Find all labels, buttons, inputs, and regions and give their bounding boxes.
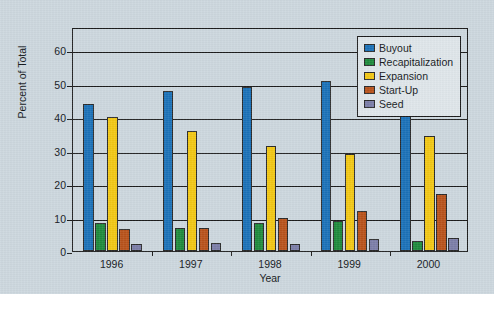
y-tick-label: 30: [54, 146, 66, 158]
y-tick-mark: [67, 52, 72, 53]
y-tick-label: 0: [60, 246, 66, 258]
x-tick-label-1997: 1997: [179, 258, 202, 270]
x-tick-label-1999: 1999: [338, 258, 361, 270]
y-axis-title: Percent of Total: [16, 12, 28, 152]
bar-group-1997: [163, 29, 222, 251]
y-tick-label: 50: [54, 79, 66, 91]
y-tick-mark: [67, 220, 72, 221]
y-axis-tick-labels: 0102030405060: [36, 28, 66, 252]
x-tick-mark: [311, 251, 312, 256]
legend-label: Start-Up: [379, 84, 418, 96]
y-tick-mark: [67, 86, 72, 87]
legend-item-expansion: Expansion: [364, 69, 453, 83]
bar-start-up-1996: [119, 229, 130, 251]
bar-buyout-1998: [242, 87, 253, 251]
legend-item-start-up: Start-Up: [364, 83, 453, 97]
y-tick-mark: [67, 119, 72, 120]
bar-group-1998: [242, 29, 301, 251]
bar-seed-2000: [448, 238, 459, 251]
y-tick-label: 60: [54, 45, 66, 57]
x-tick-mark: [231, 251, 232, 256]
x-tick-mark: [390, 251, 391, 256]
x-tick-mark: [152, 251, 153, 256]
chart-legend: BuyoutRecapitalizationExpansionStart-UpS…: [357, 36, 461, 117]
legend-label: Seed: [379, 98, 404, 110]
x-tick-label-1996: 1996: [100, 258, 123, 270]
bar-recapitalization-1997: [175, 228, 186, 251]
legend-label: Buyout: [379, 42, 412, 54]
legend-item-buyout: Buyout: [364, 41, 453, 55]
bar-expansion-1999: [345, 154, 356, 251]
chart-figure: Percent of Total 0102030405060 199619971…: [0, 0, 494, 294]
bar-buyout-2000: [400, 114, 411, 251]
x-tick-label-1998: 1998: [258, 258, 281, 270]
bar-expansion-2000: [424, 136, 435, 251]
bar-seed-1997: [211, 243, 222, 251]
bar-start-up-1997: [199, 228, 210, 251]
y-tick-mark: [67, 253, 72, 254]
legend-swatch-icon: [364, 100, 375, 108]
bar-seed-1999: [369, 239, 380, 251]
bar-recapitalization-1998: [254, 223, 265, 251]
bar-expansion-1996: [107, 117, 118, 251]
bar-buyout-1996: [83, 104, 94, 251]
bar-expansion-1998: [266, 146, 277, 251]
y-tick-label: 20: [54, 179, 66, 191]
bar-start-up-1999: [357, 211, 368, 251]
bar-expansion-1997: [187, 131, 198, 251]
bar-recapitalization-1999: [333, 221, 344, 251]
legend-swatch-icon: [364, 58, 375, 66]
bar-buyout-1997: [163, 91, 174, 251]
legend-swatch-icon: [364, 72, 375, 80]
legend-swatch-icon: [364, 86, 375, 94]
y-tick-mark: [67, 153, 72, 154]
bar-seed-1996: [131, 244, 142, 251]
legend-label: Expansion: [379, 70, 428, 82]
bar-start-up-1998: [278, 218, 289, 251]
legend-item-seed: Seed: [364, 97, 453, 111]
legend-label: Recapitalization: [379, 56, 453, 68]
bar-group-1996: [83, 29, 142, 251]
bar-buyout-1999: [321, 81, 332, 252]
bar-recapitalization-2000: [412, 241, 423, 251]
y-tick-mark: [67, 186, 72, 187]
x-axis-title: Year: [72, 272, 468, 284]
bar-start-up-2000: [436, 194, 447, 251]
legend-swatch-icon: [364, 44, 375, 52]
y-tick-label: 40: [54, 112, 66, 124]
bar-seed-1998: [290, 244, 301, 251]
y-tick-label: 10: [54, 213, 66, 225]
x-tick-label-2000: 2000: [417, 258, 440, 270]
bar-recapitalization-1996: [95, 223, 106, 251]
legend-item-recapitalization: Recapitalization: [364, 55, 453, 69]
